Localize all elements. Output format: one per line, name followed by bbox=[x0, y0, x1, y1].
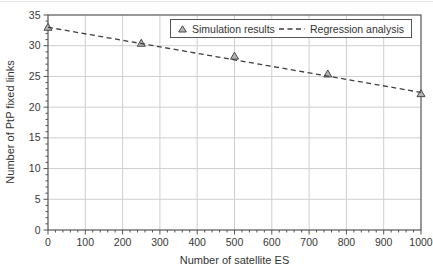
x-tick-label: 700 bbox=[300, 236, 318, 248]
y-tick-label: 20 bbox=[29, 101, 41, 113]
triangle-marker-icon bbox=[178, 25, 187, 33]
legend-label: Regression analysis bbox=[310, 23, 404, 35]
x-tick-label: 500 bbox=[226, 236, 244, 248]
data-point-triangle bbox=[231, 52, 239, 59]
chart-figure: 0100200300400500600700800900100005101520… bbox=[0, 0, 433, 277]
y-tick-label: 15 bbox=[29, 131, 41, 143]
legend-label: Simulation results bbox=[192, 23, 275, 35]
y-tick-label: 25 bbox=[29, 70, 41, 82]
y-tick-label: 5 bbox=[35, 193, 41, 205]
x-tick-label: 900 bbox=[375, 236, 393, 248]
y-axis-label: Number of PtP fixed links bbox=[4, 15, 20, 230]
dashed-line-icon bbox=[279, 27, 305, 31]
legend-item: Simulation results bbox=[178, 23, 275, 35]
data-point-triangle bbox=[137, 39, 145, 46]
x-tick-label: 600 bbox=[263, 236, 281, 248]
x-tick-label: 300 bbox=[151, 236, 169, 248]
x-tick-label: 200 bbox=[114, 236, 132, 248]
x-tick-label: 0 bbox=[45, 236, 51, 248]
y-tick-label: 35 bbox=[29, 9, 41, 21]
y-tick-label: 30 bbox=[29, 39, 41, 51]
chart-canvas: 0100200300400500600700800900100005101520… bbox=[0, 0, 433, 277]
data-point-triangle bbox=[44, 23, 52, 30]
x-tick-label: 100 bbox=[77, 236, 95, 248]
y-tick-label: 0 bbox=[35, 224, 41, 236]
legend: Simulation resultsRegression analysis bbox=[170, 19, 412, 38]
x-tick-label: 800 bbox=[338, 236, 356, 248]
data-point-triangle bbox=[417, 90, 425, 97]
x-tick-label: 400 bbox=[188, 236, 206, 248]
legend-item: Regression analysis bbox=[279, 23, 404, 35]
y-tick-label: 10 bbox=[29, 162, 41, 174]
x-axis-label: Number of satellite ES bbox=[48, 254, 421, 266]
x-tick-label: 1000 bbox=[409, 236, 433, 248]
